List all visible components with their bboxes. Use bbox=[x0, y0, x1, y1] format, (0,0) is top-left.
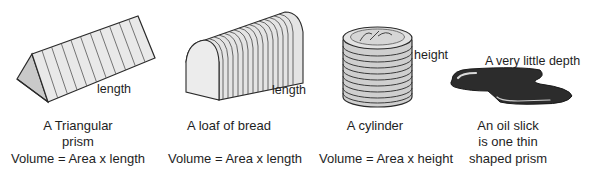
triangular-prism-illustration bbox=[17, 16, 155, 102]
bread-front-face bbox=[186, 40, 219, 100]
prism-caption-line-1: A Triangular bbox=[28, 118, 128, 134]
cylinder-caption: A cylinder bbox=[335, 118, 415, 134]
cylinder-illustration bbox=[343, 27, 412, 107]
prism-side-face bbox=[32, 16, 155, 102]
oil-slick-depth-label: A very little depth bbox=[485, 54, 580, 68]
cylinder-volume-formula: Volume = Area x height bbox=[313, 151, 459, 167]
oil-slick-caption-line-3: shaped prism bbox=[462, 151, 554, 167]
bread-volume-formula: Volume = Area x length bbox=[162, 151, 308, 167]
bread-length-label: length bbox=[272, 83, 306, 97]
prism-volume-formula: Volume = Area x length bbox=[6, 151, 150, 167]
oil-slick-caption-line-2: is one thin bbox=[462, 134, 554, 150]
prism-length-label: length bbox=[97, 82, 131, 96]
oil-slick-caption-line-1: An oil slick bbox=[462, 118, 554, 134]
cylinder-height-label: height bbox=[414, 48, 448, 62]
bread-caption: A loaf of bread bbox=[178, 118, 280, 134]
prism-caption-line-2: prism bbox=[28, 134, 128, 150]
oil-slick-illustration bbox=[451, 68, 572, 105]
